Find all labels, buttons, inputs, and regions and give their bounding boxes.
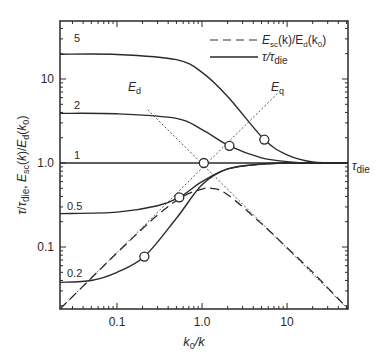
x-tick-label-1.0: 1.0 [194,315,211,329]
y-tick-label-0.1: 0.1 [37,240,54,254]
curve-label-0.2: 0.2 [67,267,82,279]
legend-dashed-label: Esc(k)/Ed(k0) [262,33,326,49]
legend: Esc(k)/Ed(k0) τ/τdie [210,33,326,66]
curve-esc-k-ed-k0- [60,188,348,309]
curve-label-2: 2 [74,99,80,111]
circle-marker [140,252,149,261]
curve-label-0.5: 0.5 [67,200,82,212]
eq-label: Eq [271,80,284,96]
circle-marker [199,159,208,168]
curve--die-5- [60,54,348,163]
curve-label-5: 5 [74,32,80,44]
curve-label-1: 1 [74,149,80,161]
y-axis-label: τ/τdie, Esc(k)/Ed(k0) [15,116,31,215]
tau-die-label: τdie [352,159,370,175]
x-tick-label-10: 10 [280,315,294,329]
y-tick-label-10: 10 [41,72,55,86]
curve-ed [148,110,348,309]
curve--die-2- [60,113,348,163]
circle-marker [225,141,234,150]
x-tick-label-0.1: 0.1 [109,315,126,329]
circle-marker [175,193,184,202]
ed-label: Ed [128,80,141,96]
legend-solid-label: τ/τdie [262,50,288,66]
x-axis-label: k0/k [183,334,206,351]
y-tick-label-1.0: 1.0 [37,156,54,170]
plot-curves [60,54,348,309]
chart: 0.1 1.0 10 10 1.0 0.1 k0/k τ/τdie, Esc(k… [0,0,389,359]
circle-marker [260,135,269,144]
